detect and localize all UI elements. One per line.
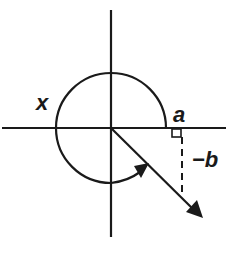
vertical-leg-label: −b xyxy=(192,147,218,172)
diagram-canvas: x a −b xyxy=(0,0,229,257)
terminal-ray xyxy=(111,128,196,212)
angle-label: x xyxy=(35,90,49,115)
horizontal-leg-label: a xyxy=(173,102,185,127)
right-angle-marker xyxy=(172,129,181,137)
ray-arrowhead-icon xyxy=(186,200,203,218)
